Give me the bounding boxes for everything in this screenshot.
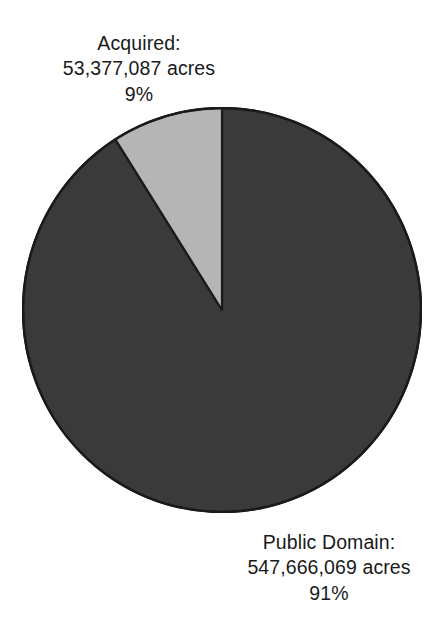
pie-label-acquired: Acquired: 53,377,087 acres 9% — [36, 31, 242, 107]
pie-label-public-domain-title: Public Domain: — [224, 530, 434, 555]
pie-label-public-domain-percent: 91% — [224, 581, 434, 606]
pie-label-acquired-value: 53,377,087 acres — [36, 56, 242, 81]
pie-chart-figure: Acquired: 53,377,087 acres 9% Public Dom… — [0, 0, 446, 629]
pie-label-acquired-percent: 9% — [36, 82, 242, 107]
pie-svg — [22, 107, 422, 513]
pie-label-public-domain: Public Domain: 547,666,069 acres 91% — [224, 530, 434, 606]
pie-label-public-domain-value: 547,666,069 acres — [224, 555, 434, 580]
pie-label-acquired-title: Acquired: — [36, 31, 242, 56]
pie-chart-graphic — [22, 107, 422, 513]
